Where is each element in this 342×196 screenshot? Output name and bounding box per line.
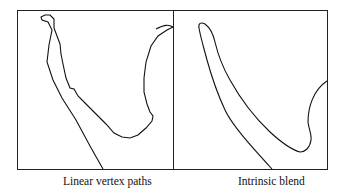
intrinsic-blend-shape [199,23,327,169]
linear-vertex-shape [41,15,173,169]
caption-intrinsic-blend: Intrinsic blend [238,175,305,187]
shape-outlines [0,0,342,196]
caption-linear-vertex-paths: Linear vertex paths [63,175,152,187]
